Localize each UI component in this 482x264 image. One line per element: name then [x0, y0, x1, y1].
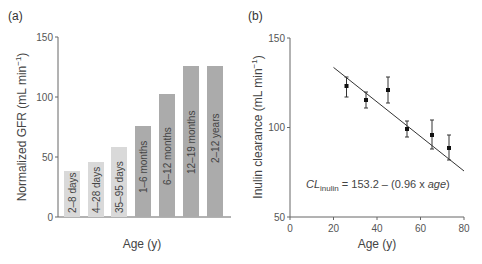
y-tick-label: 50 — [274, 212, 286, 223]
panel-b-x-axis-title: Age (y) — [358, 237, 397, 251]
trend-line — [334, 67, 465, 171]
x-tick-label: 80 — [458, 223, 470, 234]
bar-label: 2–8 days — [67, 172, 78, 213]
panel-a-bar-chart: (a) 150 100 50 0 2–8 days 4–28 days 35–9… — [8, 9, 231, 251]
bar-label: 2–12 years — [210, 114, 221, 163]
y-tick-label: 50 — [42, 152, 54, 163]
panel-a-y-axis-title: Normalized GFR (mL min−1) — [14, 53, 29, 202]
x-tick-label: 60 — [415, 223, 427, 234]
regression-equation: CLinulin = 153.2 – (0.96 x age) — [306, 178, 450, 193]
data-point — [405, 121, 409, 137]
panel-b-label: (b) — [248, 9, 263, 23]
figure: (a) 150 100 50 0 2–8 days 4–28 days 35–9… — [0, 0, 482, 264]
bar-label: 1–6 months — [138, 141, 149, 193]
y-tick-label: 100 — [268, 122, 285, 133]
panel-a-label: (a) — [8, 9, 23, 23]
data-point — [447, 135, 451, 160]
bar-label: 6–12 months — [162, 127, 173, 185]
data-point — [386, 77, 390, 103]
bar-label: 12–19 months — [186, 111, 197, 174]
panel-b-y-axis-title: Inulin clearance (mL min−1) — [250, 55, 265, 198]
bar-label: 35–95 days — [114, 161, 125, 213]
y-tick-label: 150 — [268, 33, 285, 44]
x-tick-label: 20 — [328, 223, 340, 234]
x-tick-label: 0 — [287, 223, 293, 234]
bar-label: 4–28 days — [91, 167, 102, 213]
y-tick-label: 100 — [36, 92, 53, 103]
y-tick-label: 150 — [36, 32, 53, 43]
data-point — [345, 77, 349, 97]
panel-b-scatter-chart: (b) 150 100 50 0 20 40 60 80 — [248, 9, 470, 251]
panel-a-x-axis-title: Age (y) — [123, 237, 162, 251]
y-tick-label: 0 — [47, 212, 53, 223]
x-tick-label: 40 — [371, 223, 383, 234]
